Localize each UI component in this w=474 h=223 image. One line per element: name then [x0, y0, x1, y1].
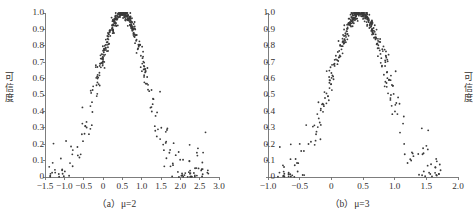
caption-text-b: （b）μ=3: [330, 199, 370, 209]
panel-caption-b: （b）μ=3: [233, 199, 466, 210]
y-tick-label: 0.3: [20, 123, 44, 132]
x-tick-label: −1.0: [255, 182, 281, 191]
y-tick-label: 0.6: [251, 74, 275, 83]
y-tick-label: 1.0: [20, 8, 44, 17]
y-tick-label: 0.8: [251, 41, 275, 50]
y-tick-label: 0.1: [251, 156, 275, 165]
y-tick-label: 0.7: [251, 58, 275, 67]
x-tick-label: 3.0: [206, 182, 232, 191]
chart-panel-b: 可 信 度 00.10.20.30.40.50.60.70.80.91.0 −1…: [233, 0, 466, 223]
y-tick-label: 0.9: [20, 25, 44, 34]
x-tick-label: −0.5: [287, 182, 313, 191]
x-tick-label: 0.5: [350, 182, 376, 191]
y-tick-label: 0.5: [251, 90, 275, 99]
y-tick-label: 0.7: [20, 58, 44, 67]
y-tick-label: 0.6: [20, 74, 44, 83]
y-tick-label: 0.5: [20, 90, 44, 99]
y-tick-label: 0.4: [251, 107, 275, 116]
y-axis-label-a: 可 信 度: [3, 72, 15, 104]
x-tick-label: 2.0: [445, 182, 471, 191]
caption-text-a: （a）μ=2: [97, 199, 136, 209]
y-tick-label: 0.3: [251, 123, 275, 132]
x-tick-label: 1.5: [413, 182, 439, 191]
y-tick-label: 1.0: [251, 8, 275, 17]
chart-panel-a: 可 信 度 00.10.20.30.40.50.60.70.80.91.0 −1…: [0, 0, 233, 223]
y-tick-label: 0.2: [20, 140, 44, 149]
y-tick-label: 0.4: [20, 107, 44, 116]
y-tick-label: 0.8: [20, 41, 44, 50]
panel-caption-a: （a）μ=2: [0, 199, 233, 210]
y-tick-label: 0.1: [20, 156, 44, 165]
x-tick-label: 0: [318, 182, 344, 191]
y-tick-label: 0.2: [251, 140, 275, 149]
y-axis-label-b: 可 信 度: [462, 72, 474, 104]
y-tick-label: 0.9: [251, 25, 275, 34]
x-tick-label: 1.0: [382, 182, 408, 191]
